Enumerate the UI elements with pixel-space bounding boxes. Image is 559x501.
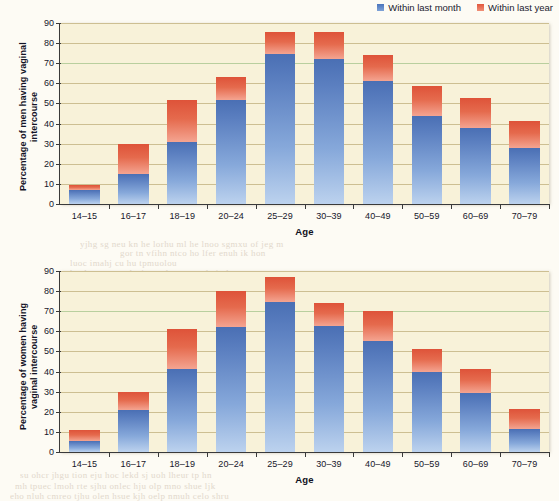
bar-stack [216,291,246,452]
y-axis-tick-label: 10 [36,427,54,437]
legend-label-within-last-month: Within last month [388,2,461,13]
bar-stack [460,369,490,452]
bar-segment-within-last-month [265,302,295,452]
gridline [60,331,549,332]
gridline [60,23,549,24]
bar-segment-within-last-year [314,303,344,326]
bar-stack [69,430,99,452]
bar-segment-within-last-month [412,372,442,452]
bar-segment-within-last-year [460,369,490,393]
bar-segment-within-last-year [509,409,539,429]
x-axis-title-men: Age [60,226,549,237]
bar-stack [216,77,246,204]
legend-swatch-red-icon [477,4,484,11]
bar-segment-within-last-month [118,174,148,204]
bar-segment-within-last-year [265,32,295,54]
x-axis-tick-mark [500,453,501,457]
x-axis-tick-label: 60–69 [451,211,500,221]
y-axis-tick-label: 80 [36,286,54,296]
x-axis-tick-label: 60–69 [451,459,500,469]
x-axis-tick-label: 50–59 [402,459,451,469]
y-axis-tick-label: 70 [36,58,54,68]
x-axis-tick-mark [353,205,354,209]
x-axis-title-women: Age [60,474,549,485]
x-axis-tick-mark [305,453,306,457]
x-axis-tick-label: 40–49 [353,459,402,469]
bar-stack [363,311,393,452]
bar-segment-within-last-year [167,329,197,368]
bar-stack [265,32,295,204]
x-axis-tick-label: 30–39 [305,459,354,469]
bar-segment-within-last-month [314,59,344,204]
bar-stack [460,98,490,204]
x-axis-tick-label: 14–15 [60,459,109,469]
bar-segment-within-last-year [460,98,490,127]
bar-stack [167,100,197,204]
x-axis-tick-mark [549,453,550,457]
x-axis-tick-mark [158,205,159,209]
x-axis-tick-label: 20–24 [207,459,256,469]
gridline [60,83,549,84]
y-axis-tick-label: 60 [36,78,54,88]
gridline [60,311,549,312]
bar-stack [509,121,539,204]
bar-segment-within-last-month [69,190,99,204]
bar-segment-within-last-month [265,54,295,204]
legend-item-within-last-year: Within last year [477,2,553,13]
x-axis-tick-label: 16–17 [109,459,158,469]
bar-segment-within-last-month [167,369,197,452]
legend-item-within-last-month: Within last month [377,2,461,13]
bar-segment-within-last-month [412,116,442,204]
y-axis-tick-label: 80 [36,38,54,48]
gridline [60,43,549,44]
plot-area-women [60,271,549,452]
x-axis-tick-label: 20–24 [207,211,256,221]
bar-segment-within-last-year [118,144,148,174]
bar-segment-within-last-month [363,341,393,452]
legend-label-within-last-year: Within last year [488,2,553,13]
y-axis-tick-label: 20 [36,407,54,417]
legend-swatch-blue-icon [377,4,384,11]
chart-panel-men: Within last month Within last year Perce… [0,0,559,249]
y-axis-line [59,23,60,205]
bar-segment-within-last-month [460,128,490,204]
y-axis-tick-label: 90 [36,266,54,276]
gridline [60,271,549,272]
bar-stack [118,392,148,452]
bar-segment-within-last-month [118,410,148,452]
bar-stack [363,55,393,204]
x-axis-tick-label: 25–29 [256,211,305,221]
y-axis-tick-label: 70 [36,306,54,316]
x-axis-tick-mark [451,205,452,209]
x-axis-tick-label: 18–19 [158,459,207,469]
x-axis-tick-mark [256,205,257,209]
bar-segment-within-last-year [363,55,393,81]
bar-segment-within-last-month [216,327,246,452]
x-axis-tick-label: 40–49 [353,211,402,221]
plot-area-men [60,23,549,204]
bar-segment-within-last-year [412,349,442,371]
x-axis-tick-mark [549,205,550,209]
bar-stack [314,32,344,204]
x-axis-tick-label: 30–39 [305,211,354,221]
y-axis-tick-label: 40 [36,119,54,129]
bar-segment-within-last-month [460,393,490,452]
x-axis-tick-mark [207,205,208,209]
bar-segment-within-last-year [69,430,99,441]
bar-stack [509,409,539,452]
x-axis-tick-mark [158,453,159,457]
bar-segment-within-last-year [118,392,148,410]
x-axis-tick-mark [451,453,452,457]
bar-stack [412,86,442,204]
x-axis-tick-mark [109,453,110,457]
x-axis-tick-label: 70–79 [500,211,549,221]
bar-segment-within-last-year [363,311,393,341]
bar-segment-within-last-month [167,142,197,204]
x-axis-tick-label: 25–29 [256,459,305,469]
bar-segment-within-last-year [314,32,344,59]
x-axis-tick-label: 18–19 [158,211,207,221]
bar-stack [167,329,197,452]
x-axis-tick-mark [256,453,257,457]
gridline [60,63,549,64]
x-axis-tick-mark [402,205,403,209]
